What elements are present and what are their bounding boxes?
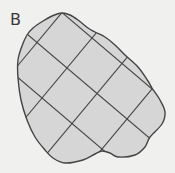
diagram-canvas: B: [0, 0, 175, 173]
blob-grid-figure: [0, 0, 175, 173]
